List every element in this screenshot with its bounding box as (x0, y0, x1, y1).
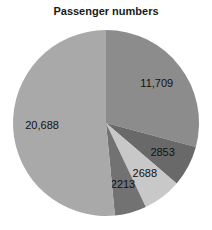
slice-label-0: 11,709 (140, 77, 173, 89)
slice-label-4: 20,688 (25, 119, 59, 131)
slice-label-1: 2853 (150, 146, 174, 158)
slice-label-2: 2688 (133, 167, 157, 179)
pie-chart: 11,70928532688221320,688 (0, 0, 212, 230)
slice-label-3: 2213 (111, 178, 135, 190)
